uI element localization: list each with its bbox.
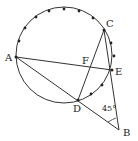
arc-dots <box>18 8 116 96</box>
point-E <box>111 69 114 72</box>
label-D: D <box>73 103 81 114</box>
segment-AE <box>16 57 112 70</box>
arc-dot <box>18 40 21 43</box>
label-A: A <box>4 52 13 63</box>
point-A <box>15 56 18 59</box>
circle <box>16 7 112 103</box>
label-F: F <box>82 55 89 66</box>
arc-dot <box>92 17 95 20</box>
arc-dot <box>24 27 27 30</box>
label-C: C <box>106 18 114 29</box>
angle-arc-B <box>108 118 116 122</box>
label-E: E <box>115 66 122 77</box>
arc-dot <box>78 10 81 13</box>
arc-dot <box>110 42 113 45</box>
arc-dot <box>63 8 66 11</box>
label-B: B <box>123 127 130 138</box>
arc-dot <box>90 93 93 96</box>
point-D <box>77 99 80 102</box>
arc-dot <box>35 16 38 19</box>
segment-AB <box>16 57 119 130</box>
arc-dot <box>113 55 116 58</box>
geometry-diagram: A C E F D B 45° <box>0 0 138 141</box>
arc-dot <box>48 10 51 13</box>
arc-dot <box>101 84 104 87</box>
segment-CB <box>104 30 119 130</box>
angle-label-45: 45° <box>102 104 116 113</box>
